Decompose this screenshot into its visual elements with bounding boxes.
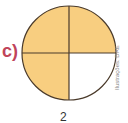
quadrant-top-right [69,6,116,53]
bottom-partial-text: 2 [60,110,67,123]
quadrant-bottom-right [69,53,116,100]
quadrant-bottom-left [22,53,69,100]
quadrant-top-left [22,6,69,53]
fraction-circle [0,0,128,123]
illustration-credit: Ilustrações: DAE [114,45,120,90]
